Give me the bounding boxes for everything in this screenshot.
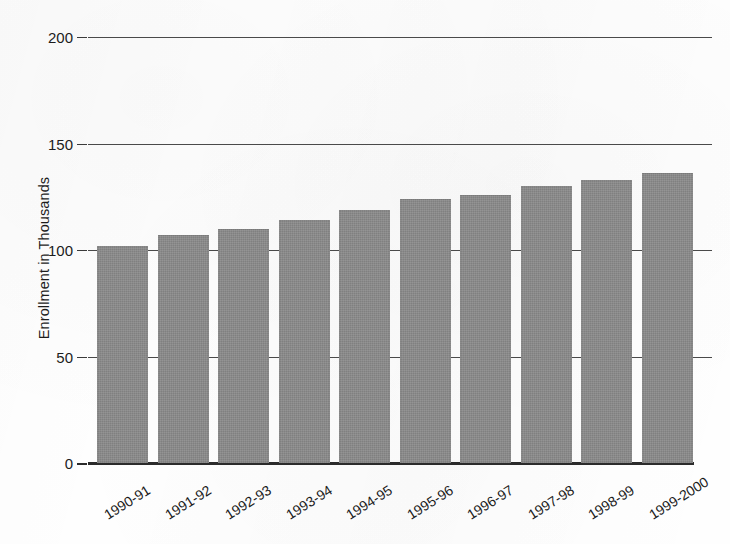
chart-title-cropped: [0, 0, 730, 9]
x-tick-label: 1991-92: [162, 482, 214, 523]
y-tick-mark-100: [77, 250, 87, 251]
bar[interactable]: [581, 180, 632, 463]
gridline-200: [88, 37, 712, 38]
x-tick-label: 1990-91: [101, 482, 153, 523]
bar[interactable]: [521, 186, 572, 463]
bar[interactable]: [339, 210, 390, 463]
x-tick-label: 1993-94: [283, 482, 335, 523]
y-tick-mark-50: [77, 357, 87, 358]
y-tick-label: 50: [56, 348, 73, 365]
bar[interactable]: [400, 199, 451, 463]
x-tick-label: 1998-99: [585, 482, 637, 523]
x-tick-label: 1997-98: [525, 482, 577, 523]
y-tick-label: 0: [65, 455, 73, 472]
bar[interactable]: [460, 195, 511, 463]
x-tick-label: 1999-2000: [646, 474, 711, 523]
y-tick-mark-150: [77, 144, 87, 145]
x-tick-label: 1996-97: [464, 482, 516, 523]
y-tick-mark-0: [77, 463, 87, 465]
gridline-150: [88, 144, 712, 145]
y-tick-label: 100: [48, 242, 73, 259]
y-tick-label: 200: [48, 29, 73, 46]
y-tick-mark-200: [77, 37, 87, 38]
y-tick-label: 150: [48, 135, 73, 152]
x-tick-label: 1992-93: [222, 482, 274, 523]
bar[interactable]: [642, 173, 693, 463]
bar[interactable]: [97, 246, 148, 463]
x-tick-label: 1995-96: [404, 482, 456, 523]
x-tick-label: 1994-95: [343, 482, 395, 523]
bar[interactable]: [218, 229, 269, 463]
bar[interactable]: [158, 235, 209, 463]
plot-area: 050100150200 1990-911991-921992-931993-9…: [88, 37, 712, 463]
bar[interactable]: [279, 220, 330, 463]
bar-chart: Enrollment in Thousands 050100150200 199…: [0, 0, 730, 544]
